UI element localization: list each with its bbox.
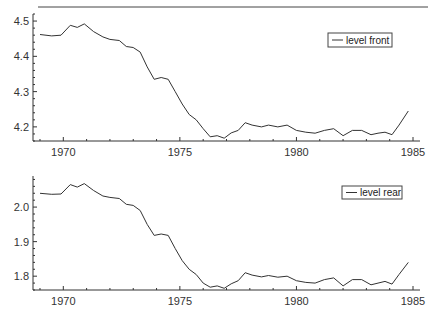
legend-label: level front [346,35,390,46]
x-tick-label: 1980 [284,295,308,307]
y-tick-label: 4.5 [14,15,29,27]
legend-label: level rear [360,187,402,198]
x-tick-label: 1975 [168,295,192,307]
y-tick-label: 4.3 [14,86,29,98]
x-tick-label: 1970 [51,295,75,307]
x-tick-label: 1970 [51,146,75,158]
y-tick-label: 1.8 [14,270,29,282]
x-tick-label: 1985 [401,295,425,307]
y-tick-label: 1.9 [14,236,29,248]
y-tick-label: 4.4 [14,50,29,62]
plot-level-rear: 19701975198019851.81.92.0level rear [14,176,426,307]
x-tick-label: 1985 [401,146,425,158]
chart-canvas: 19701975198019854.24.34.44.5level front … [0,0,435,322]
x-tick-label: 1975 [168,146,192,158]
y-tick-label: 2.0 [14,201,29,213]
plot-level-front: 19701975198019854.24.34.44.5level front [14,14,426,158]
x-tick-label: 1980 [284,146,308,158]
y-tick-label: 4.2 [14,121,29,133]
